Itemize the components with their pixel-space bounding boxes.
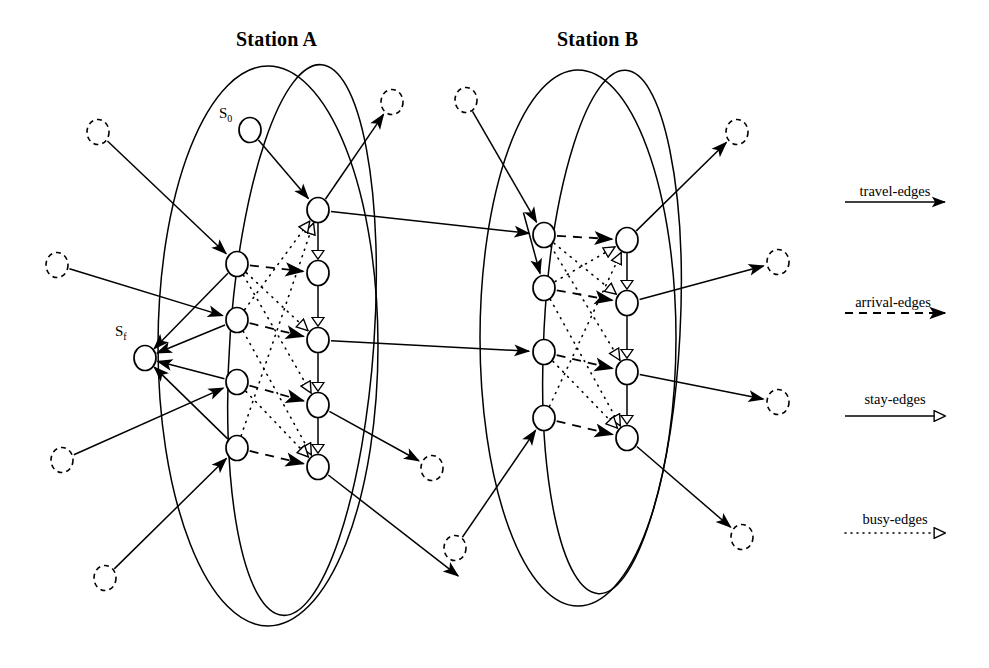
busy-edge xyxy=(241,223,313,435)
busy-edge xyxy=(553,361,617,428)
travel-edge-to-sink xyxy=(154,273,228,348)
node-b-in-3 xyxy=(533,340,555,365)
external-node-ext-l3 xyxy=(51,448,73,473)
node-a-in-1 xyxy=(226,252,248,277)
external-node-ext-t2 xyxy=(455,88,477,113)
travel-edge xyxy=(640,266,764,300)
busy-edge xyxy=(246,391,308,456)
node-a-out-3 xyxy=(307,328,329,353)
external-node-ext-m2 xyxy=(444,536,466,561)
node-a-in-3 xyxy=(226,370,248,395)
busy-edge xyxy=(243,275,311,393)
external-node-ext-l2 xyxy=(46,253,68,278)
travel-edge-layer xyxy=(69,111,763,576)
node-a-out-2 xyxy=(307,261,329,286)
external-node-ext-r1 xyxy=(726,120,748,145)
node-b-out-1 xyxy=(616,228,638,253)
legend-graphic xyxy=(845,202,945,533)
busy-edge xyxy=(243,331,311,454)
travel-edge xyxy=(473,111,537,222)
busy-edge xyxy=(554,243,616,294)
station-b-boundary-2 xyxy=(530,67,693,597)
arrival-edge xyxy=(557,236,612,239)
busy-edge-layer xyxy=(241,221,621,457)
node-b-out-2 xyxy=(616,291,638,316)
external-node-ext-r3 xyxy=(767,390,789,415)
travel-edge xyxy=(328,475,458,576)
external-node-ext-r4 xyxy=(731,525,753,550)
busy-edge xyxy=(550,299,620,425)
external-node-ext-l4 xyxy=(94,566,116,591)
node-a-in-4 xyxy=(226,436,248,461)
busy-edge xyxy=(549,253,621,407)
station-a-title: Station A xyxy=(236,28,317,51)
travel-edge xyxy=(462,430,535,537)
arrival-edge xyxy=(557,421,613,434)
legend-label-travel-edges: travel-edges xyxy=(860,183,931,200)
node-b-out-4 xyxy=(616,426,638,451)
station-b-title: Station B xyxy=(557,28,638,51)
diagram-canvas: Station AStation B S0Sf travel-edgesarri… xyxy=(0,0,989,668)
station-a-boundary-1 xyxy=(158,66,378,626)
travel-edge xyxy=(69,269,222,316)
external-node-ext-t1 xyxy=(381,90,403,115)
travel-edge-to-sink xyxy=(157,325,225,353)
travel-edge xyxy=(325,114,383,199)
external-node-ext-l1 xyxy=(87,120,109,145)
external-node-ext-r2 xyxy=(767,250,789,275)
arrival-edge-layer xyxy=(250,236,613,464)
station-boundaries xyxy=(158,60,694,626)
label-source: S0 xyxy=(219,105,232,124)
busy-edge xyxy=(246,273,307,331)
station-b-boundary-1 xyxy=(480,70,676,606)
node-b-in-4 xyxy=(533,406,555,431)
node-a-out-4 xyxy=(307,393,329,418)
station-a-boundary-2 xyxy=(211,60,393,621)
node-b-in-1 xyxy=(533,223,555,248)
external-node-ext-m1 xyxy=(421,456,443,481)
travel-edge xyxy=(74,388,223,455)
label-sink: Sf xyxy=(115,323,127,342)
arrival-edge xyxy=(250,451,304,464)
arrival-edge xyxy=(557,290,612,300)
travel-edge xyxy=(258,140,308,199)
arrival-edge xyxy=(250,265,303,271)
node-a-out-5 xyxy=(307,455,329,480)
busy-edge xyxy=(551,246,620,360)
travel-edge-to-sink xyxy=(154,367,227,439)
travel-edge xyxy=(331,341,529,352)
node-b-out-3 xyxy=(616,360,638,385)
legend-label-arrival-edges: arrival-edges xyxy=(855,294,931,311)
travel-edge xyxy=(640,375,764,400)
node-b-in-2 xyxy=(533,276,555,301)
node-a-out-1 xyxy=(307,198,329,223)
legend-label-stay-edges: stay-edges xyxy=(864,391,925,408)
stay-edge-layer xyxy=(318,223,627,453)
node-a-in-2 xyxy=(226,308,248,333)
node-source xyxy=(239,118,261,143)
travel-edge xyxy=(331,211,529,233)
network-graphic xyxy=(0,0,989,668)
node-sink xyxy=(134,346,156,371)
legend-label-busy-edges: busy-edges xyxy=(862,511,927,528)
travel-edge-to-sink xyxy=(158,361,225,378)
